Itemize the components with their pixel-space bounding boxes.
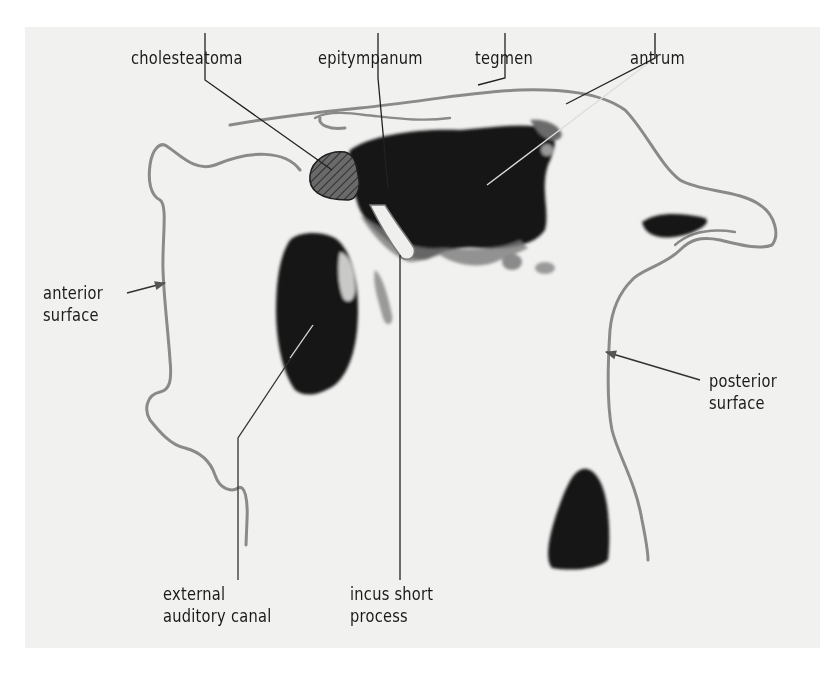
- label-eac-line1: external: [163, 583, 271, 605]
- label-posterior-line1: posterior: [709, 370, 777, 392]
- label-posterior-line2: surface: [709, 392, 777, 414]
- anterior-surface-arrow: [127, 283, 165, 293]
- label-eac-line2: auditory canal: [163, 605, 271, 627]
- mastoid-cavity: [548, 469, 609, 570]
- label-anterior-line1: anterior: [43, 282, 103, 304]
- epitympanum-antrum-cavity: [348, 120, 562, 274]
- posterior-surface-arrow: [606, 352, 700, 380]
- label-incus-line1: incus short: [350, 583, 433, 605]
- external-auditory-canal-cavity: [276, 233, 392, 395]
- temporal-bone-diagram: [0, 0, 829, 677]
- label-tegmen: tegmen: [475, 47, 533, 69]
- label-cholesteatoma: cholesteatoma: [131, 47, 243, 69]
- label-antrum: antrum: [630, 47, 685, 69]
- label-incus-line2: process: [350, 605, 433, 627]
- label-external-auditory-canal: external auditory canal: [163, 583, 271, 627]
- label-anterior-surface: anterior surface: [43, 282, 103, 326]
- label-epitympanum: epitympanum: [318, 47, 423, 69]
- label-incus-short-process: incus short process: [350, 583, 433, 627]
- label-posterior-surface: posterior surface: [709, 370, 777, 414]
- label-anterior-line2: surface: [43, 304, 103, 326]
